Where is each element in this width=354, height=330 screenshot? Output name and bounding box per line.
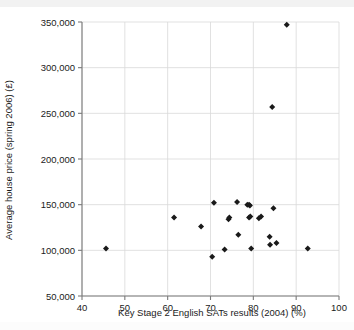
data-point-marker (270, 205, 276, 211)
y-tick-label: 150,000 (41, 199, 75, 210)
x-tick-label: 100 (331, 302, 347, 313)
y-tick-label: 200,000 (41, 154, 75, 165)
x-tick-label: 40 (77, 302, 88, 313)
data-point-marker (222, 246, 228, 252)
data-point-marker (267, 242, 273, 248)
gridlines-group (82, 22, 339, 296)
y-tick-label: 350,000 (41, 17, 75, 28)
data-point-marker (198, 224, 204, 230)
y-tick-label: 250,000 (41, 108, 75, 119)
y-tick-labels-group: 50,000100,000150,000200,000250,000300,00… (41, 17, 75, 302)
data-point-marker (267, 234, 273, 240)
y-tick-label: 50,000 (46, 291, 75, 302)
scatter-plot-svg: 405060708090100 50,000100,000150,000200,… (0, 0, 354, 330)
data-point-marker (284, 22, 290, 28)
scatter-chart-figure: 405060708090100 50,000100,000150,000200,… (0, 0, 354, 330)
y-axis-title: Average house price (spring 2006) (£) (3, 80, 14, 240)
data-points-group (103, 22, 311, 260)
data-point-marker (273, 240, 279, 246)
plot-area-wrapper: 405060708090100 50,000100,000150,000200,… (0, 0, 354, 330)
data-point-marker (269, 104, 275, 110)
data-point-marker (235, 232, 241, 238)
x-axis-title: Key Stage 2 English SATs results (2004) … (118, 307, 306, 318)
data-point-marker (234, 199, 240, 205)
data-point-marker (171, 214, 177, 220)
y-tick-label: 300,000 (41, 62, 75, 73)
tick-marks-group (78, 22, 339, 300)
bottom-edge-strip (0, 322, 354, 330)
y-tick-label: 100,000 (41, 245, 75, 256)
